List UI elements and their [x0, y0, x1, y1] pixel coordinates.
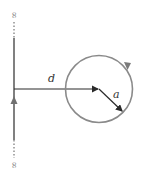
distance-label: d: [48, 72, 55, 85]
diagram-canvas: ∞ ∞ d a: [0, 0, 145, 177]
infinity-top-label: ∞: [9, 12, 19, 20]
infinity-bottom-label: ∞: [9, 162, 19, 170]
radius-label: a: [113, 88, 120, 101]
current-arrow-icon: [11, 96, 18, 104]
